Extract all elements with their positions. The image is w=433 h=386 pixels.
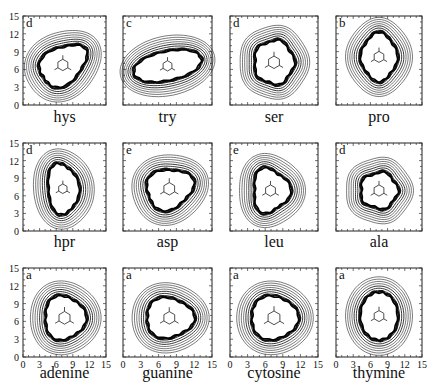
y-tick-label: 3 [14, 82, 19, 93]
panel-letter: e [233, 142, 239, 157]
panel-ser: dser [230, 15, 318, 125]
x-tick-label: 15 [207, 359, 217, 370]
panel-try: ctry [120, 15, 215, 126]
y-tick-label: 15 [9, 11, 19, 22]
panel-hpr: d03691215hpr [9, 138, 106, 251]
x-tick-label: 15 [101, 359, 111, 370]
panel-letter: a [126, 267, 132, 282]
panel-ala: dala [336, 142, 422, 250]
y-tick-label: 6 [14, 191, 19, 202]
panel-letter: d [233, 15, 240, 30]
panel-asp: easp [123, 142, 212, 251]
panel-leu: eleu [230, 142, 318, 250]
panel-name: hys [53, 108, 75, 126]
panel-letter: a [339, 267, 345, 282]
y-tick-label: 9 [14, 173, 19, 184]
x-tick-label: 0 [21, 359, 26, 370]
panel-name: pro [368, 108, 389, 126]
y-tick-label: 6 [14, 64, 19, 75]
x-tick-label: 15 [417, 359, 427, 370]
y-tick-label: 12 [9, 29, 19, 40]
x-tick-label: 0 [121, 359, 126, 370]
panel-guanine: a03691215guanine [121, 267, 218, 382]
panel-letter: a [233, 267, 239, 282]
y-tick-label: 9 [14, 299, 19, 310]
panel-letter: d [26, 142, 33, 157]
panel-cytosine: a03691215cytosine [228, 267, 324, 382]
y-tick-label: 15 [9, 263, 19, 274]
panel-name: try [159, 108, 177, 126]
y-tick-label: 9 [14, 47, 19, 58]
y-tick-label: 12 [9, 281, 19, 292]
panel-letter: d [26, 15, 33, 30]
panel-name: guanine [142, 364, 193, 382]
y-tick-label: 15 [9, 138, 19, 149]
x-tick-label: 0 [334, 359, 339, 370]
panel-thymine: a03691215thymine [334, 267, 428, 382]
panel-name: thymine [353, 364, 405, 382]
contour-figure: d03691215hysctrydserbprod03691215hpreasp… [0, 0, 433, 386]
y-tick-label: 6 [14, 316, 19, 327]
y-tick-label: 0 [14, 100, 19, 111]
y-tick-label: 12 [9, 156, 19, 167]
y-tick-label: 3 [14, 334, 19, 345]
panel-hys: d03691215hys [9, 11, 106, 126]
panel-letter: a [26, 267, 32, 282]
panel-letter: b [339, 15, 346, 30]
x-tick-label: 15 [313, 359, 323, 370]
panel-name: ser [265, 108, 284, 125]
panel-adenine: a0369121503691215adenine [9, 263, 111, 381]
panel-name: cytosine [247, 364, 300, 382]
panel-name: ala [370, 233, 389, 250]
panel-name: hpr [54, 233, 76, 251]
y-tick-label: 0 [14, 352, 19, 363]
panel-name: asp [157, 233, 178, 251]
panel-letter: d [339, 142, 346, 157]
panel-letter: e [126, 142, 132, 157]
panel-name: adenine [40, 364, 90, 381]
y-tick-label: 3 [14, 208, 19, 219]
x-tick-label: 0 [228, 359, 233, 370]
panel-pro: bpro [336, 15, 422, 126]
panel-letter: c [126, 15, 132, 30]
panel-name: leu [264, 233, 284, 250]
y-tick-label: 0 [14, 226, 19, 237]
molecular-surface [360, 292, 397, 340]
